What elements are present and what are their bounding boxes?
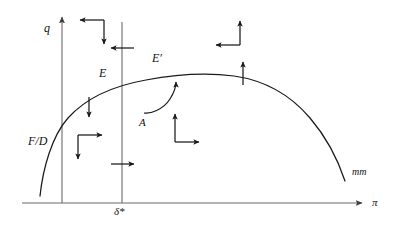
y-axis-label: q xyxy=(44,22,50,34)
mm-curve-label: mm xyxy=(352,167,366,177)
point-a-label: A xyxy=(139,117,146,128)
direction-arrows-upper-left xyxy=(80,20,104,44)
direction-arrows-lower-left xyxy=(78,135,102,159)
phase-plane-svg xyxy=(0,0,400,232)
delta-star-label: δ* xyxy=(114,206,125,217)
region-e-label: E xyxy=(99,67,106,79)
x-axis-label: π xyxy=(372,197,378,208)
region-e-prime-label: E′ xyxy=(152,52,162,64)
saddle-path-arc xyxy=(144,82,176,113)
direction-arrows-upper-right xyxy=(216,21,240,45)
diagram-canvas: q π δ* F/D E E′ A mm xyxy=(0,0,400,232)
f-over-d-label: F/D xyxy=(28,135,47,147)
direction-arrows-lower-right xyxy=(175,114,199,142)
